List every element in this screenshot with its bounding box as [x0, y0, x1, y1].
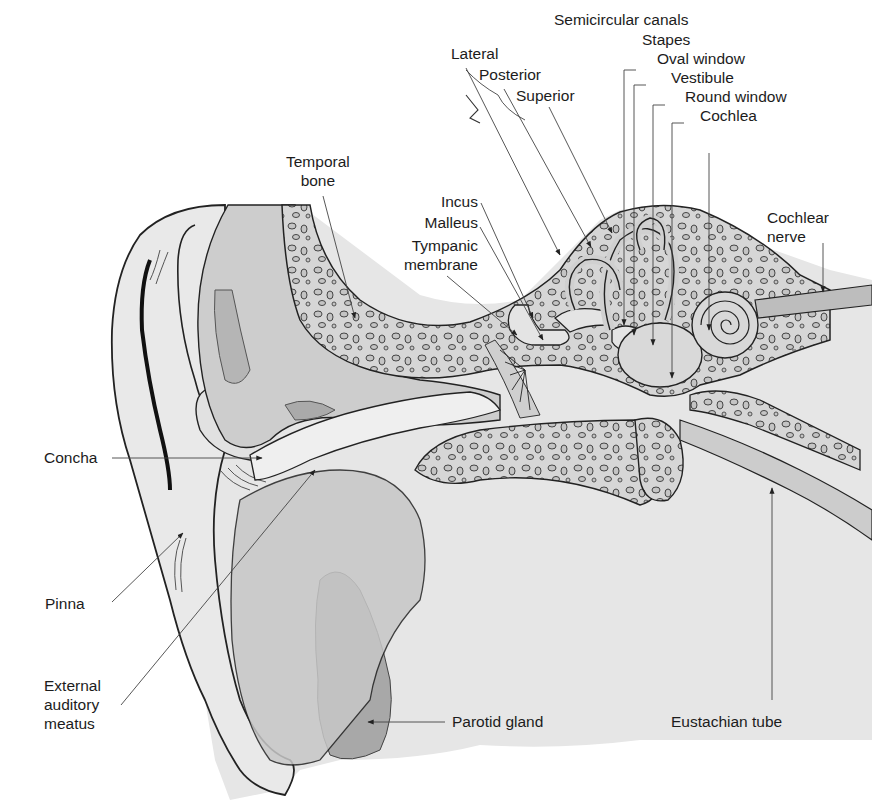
vestibule-shape — [618, 323, 702, 387]
label-temporal-bone-line1: Temporal — [286, 152, 350, 171]
label-stapes: Stapes — [642, 30, 690, 49]
label-eam-line1: External — [44, 676, 101, 695]
label-superior: Superior — [516, 86, 575, 105]
cochlea-shape — [692, 292, 758, 358]
label-eam-line2: auditory — [44, 695, 101, 714]
label-semicircular-canals: Semicircular canals — [554, 10, 688, 29]
label-concha: Concha — [44, 448, 97, 467]
leader-incus — [481, 203, 533, 318]
label-oval-window: Oval window — [657, 49, 745, 68]
label-cochlear-nerve-line1: Cochlear — [767, 208, 829, 227]
label-malleus: Malleus — [410, 213, 478, 232]
label-eam-line3: meatus — [44, 714, 101, 733]
label-tympanic-line2: membrane — [390, 255, 478, 274]
leader-posterior — [504, 89, 591, 247]
label-temporal-bone-line2: bone — [286, 171, 350, 190]
label-pinna: Pinna — [45, 594, 85, 613]
label-cochlear-nerve: Cochlear nerve — [767, 208, 829, 246]
label-posterior: Posterior — [479, 65, 541, 84]
ear-anatomy-diagram: Semicircular canals Lateral Posterior Su… — [0, 0, 872, 806]
label-vestibule: Vestibule — [671, 68, 734, 87]
label-cochlea: Cochlea — [700, 106, 757, 125]
leader-superior — [549, 107, 612, 233]
label-lateral: Lateral — [451, 44, 498, 63]
label-tympanic-line1: Tympanic — [390, 236, 478, 255]
label-external-auditory-meatus: External auditory meatus — [44, 676, 101, 733]
label-eustachian-tube: Eustachian tube — [671, 712, 782, 731]
label-tympanic-membrane: Tympanic membrane — [390, 236, 478, 274]
label-parotid-gland: Parotid gland — [452, 712, 543, 731]
label-cochlear-nerve-line2: nerve — [767, 227, 829, 246]
label-temporal-bone: Temporal bone — [286, 152, 350, 190]
semicircular-bracket — [466, 95, 480, 123]
label-round-window: Round window — [685, 87, 787, 106]
label-incus: Incus — [430, 192, 478, 211]
